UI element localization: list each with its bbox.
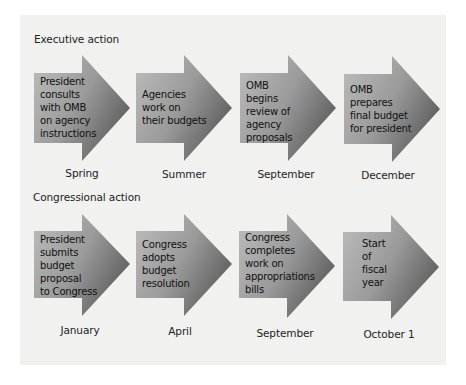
- step-description: President consults with OMB on agency in…: [40, 75, 96, 140]
- step-arrow: President submits budget proposal to Con…: [34, 214, 134, 354]
- arrow-shape-icon: [343, 215, 443, 325]
- step-description: Start of fiscal year: [362, 237, 387, 289]
- step-date: December: [338, 169, 438, 181]
- step-date: Spring: [32, 167, 132, 179]
- step-arrow: OMB begins review of agency proposals Se…: [240, 55, 340, 195]
- section-title-executive: Executive action: [34, 33, 119, 45]
- step-arrow: Congress adopts budget resolution April: [136, 214, 236, 354]
- step-arrow: Congress completes work on appropriation…: [239, 214, 339, 354]
- step-description: Congress completes work on appropriation…: [245, 231, 315, 296]
- step-description: Congress adopts budget resolution: [142, 238, 190, 290]
- step-description: OMB begins review of agency proposals: [246, 79, 292, 144]
- step-arrow: OMB prepares final budget for president …: [344, 56, 444, 196]
- step-date: Summer: [134, 168, 234, 180]
- section-title-congressional: Congressional action: [33, 191, 141, 203]
- step-date: September: [236, 168, 336, 180]
- step-description: President submits budget proposal to Con…: [40, 233, 97, 298]
- step-date: April: [130, 325, 230, 337]
- step-date: October 1: [339, 328, 439, 340]
- step-description: Agencies work on their budgets: [142, 88, 207, 127]
- step-arrow: Start of fiscal year October 1: [343, 215, 443, 355]
- step-date: September: [235, 327, 335, 339]
- step-description: OMB prepares final budget for president: [350, 83, 411, 135]
- step-arrow: President consults with OMB on agency in…: [34, 55, 134, 195]
- step-arrow: Agencies work on their budgets Summer: [136, 55, 236, 195]
- step-date: January: [30, 324, 130, 336]
